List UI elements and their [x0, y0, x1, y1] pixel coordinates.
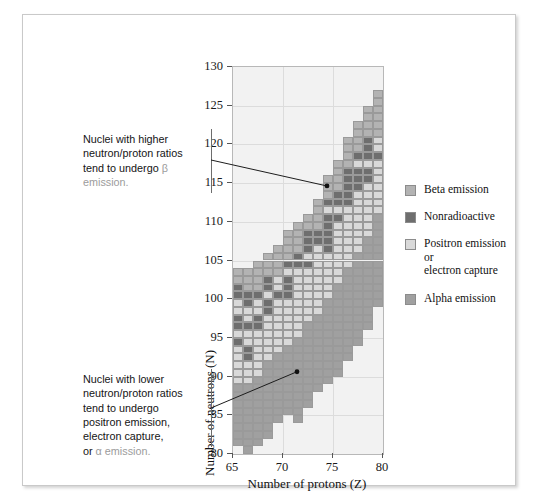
nuclide-cell-positron [263, 338, 273, 346]
nuclide-cell-stable [353, 168, 363, 176]
nuclide-cell-alpha [263, 423, 273, 431]
nuclide-cell-alpha [243, 384, 253, 392]
nuclide-cell-alpha [243, 439, 253, 447]
nuclide-cell-stable [363, 137, 373, 145]
legend-label-positron: Positron emission orelectron capture [424, 237, 515, 278]
nuclide-cell-alpha [273, 400, 283, 408]
nuclide-cell-beta [343, 144, 353, 152]
nuclide-cell-beta [353, 121, 363, 129]
nuclide-cell-beta [363, 121, 373, 129]
nuclide-cell-alpha [353, 338, 363, 346]
nuclide-cell-positron [273, 307, 283, 315]
nuclide-cell-alpha [343, 276, 353, 284]
nuclide-cell-alpha [343, 346, 353, 354]
nuclide-cell-stable [243, 346, 253, 354]
nuclide-cell-positron [273, 322, 283, 330]
nuclide-cell-positron [233, 377, 243, 385]
nuclide-cell-positron [353, 222, 363, 230]
nuclide-cell-alpha [313, 315, 323, 323]
nuclide-cell-positron [363, 160, 373, 168]
nuclide-cell-positron [233, 330, 243, 338]
nuclide-cell-alpha [243, 431, 253, 439]
x-tick-mark [232, 453, 233, 458]
nuclide-cell-positron [343, 214, 353, 222]
nuclide-cell-positron [233, 369, 243, 377]
nuclide-cell-positron [343, 230, 353, 238]
y-tick-mark [227, 337, 232, 338]
nuclide-cell-alpha [323, 307, 333, 315]
nuclide-cell-stable [293, 253, 303, 261]
nuclide-cell-alpha [273, 377, 283, 385]
nuclide-cell-alpha [353, 261, 363, 269]
nuclide-cell-positron [293, 284, 303, 292]
nuclide-cell-alpha [253, 415, 263, 423]
annotation-positron-line6-prefix: or [83, 445, 96, 457]
figure-page: 80859095100105110115120125130 Number of … [0, 0, 540, 504]
nuclide-cell-positron [313, 284, 323, 292]
nuclide-cell-alpha [273, 392, 283, 400]
nuclide-cell-stable [283, 276, 293, 284]
nuclide-cell-stable [243, 291, 253, 299]
y-tick-mark [227, 298, 232, 299]
nuclide-cell-positron [343, 237, 353, 245]
nuclide-cell-alpha [373, 222, 383, 230]
x-tick-mark [382, 453, 383, 458]
nuclide-cell-beta [243, 276, 253, 284]
nuclide-cell-alpha [243, 423, 253, 431]
nuclide-cell-positron [243, 369, 253, 377]
nuclide-cell-alpha [343, 299, 353, 307]
nuclide-cell-alpha [333, 291, 343, 299]
nuclide-cell-alpha [263, 400, 273, 408]
nuclide-cell-alpha [293, 415, 303, 423]
nuclide-cell-alpha [293, 400, 303, 408]
nuclide-cell-positron [323, 268, 333, 276]
nuclide-cell-beta [263, 261, 273, 269]
nuclide-cell-alpha [323, 361, 333, 369]
nuclide-cell-alpha [283, 400, 293, 408]
nuclide-cell-stable [363, 168, 373, 176]
nuclide-cell-stable [233, 322, 243, 330]
nuclide-cell-alpha [363, 299, 373, 307]
nuclide-cell-stable [353, 183, 363, 191]
y-tick-mark [227, 376, 232, 377]
nuclide-cell-positron [273, 284, 283, 292]
nuclide-cell-alpha [333, 315, 343, 323]
nuclide-cell-alpha [333, 369, 343, 377]
nuclide-cell-alpha [373, 299, 383, 307]
nuclide-cell-positron [373, 206, 383, 214]
nuclide-cell-positron [313, 291, 323, 299]
nuclide-cell-alpha [293, 384, 303, 392]
legend-label-line1: Positron emission or [424, 237, 506, 263]
nuclide-cell-positron [293, 307, 303, 315]
legend-swatch-stable [405, 212, 416, 223]
nuclide-cell-positron [333, 206, 343, 214]
nuclide-cell-alpha [343, 322, 353, 330]
legend-item-beta: Beta emission [405, 183, 515, 199]
legend-label-stable: Nonradioactive [424, 210, 515, 224]
nuclide-cell-beta [333, 175, 343, 183]
nuclide-cell-beta [373, 121, 383, 129]
nuclide-cell-stable [363, 175, 373, 183]
nuclide-cell-stable [273, 291, 283, 299]
nuclide-cell-alpha [373, 214, 383, 222]
nuclide-cell-positron [263, 353, 273, 361]
nuclide-cell-stable [233, 338, 243, 346]
nuclide-cell-alpha [373, 261, 383, 269]
nuclide-cell-alpha [243, 400, 253, 408]
nuclide-cell-positron [353, 206, 363, 214]
nuclide-cell-alpha [373, 230, 383, 238]
nuclide-cell-positron [353, 245, 363, 253]
nuclide-cell-positron [243, 377, 253, 385]
nuclide-cell-positron [313, 276, 323, 284]
nuclide-cell-alpha [343, 291, 353, 299]
annotation-positron-line1: Nuclei with lower [83, 373, 164, 385]
nuclide-cell-alpha [243, 408, 253, 416]
nuclide-cell-beta [273, 268, 283, 276]
nuclide-cell-beta [353, 144, 363, 152]
nuclide-cell-positron [373, 191, 383, 199]
nuclide-cell-stable [283, 261, 293, 269]
nuclide-cell-alpha [343, 284, 353, 292]
nuclide-cell-alpha [253, 384, 263, 392]
nuclide-cell-stable [303, 237, 313, 245]
annotation-positron-line3: tend to undergo [83, 402, 159, 414]
